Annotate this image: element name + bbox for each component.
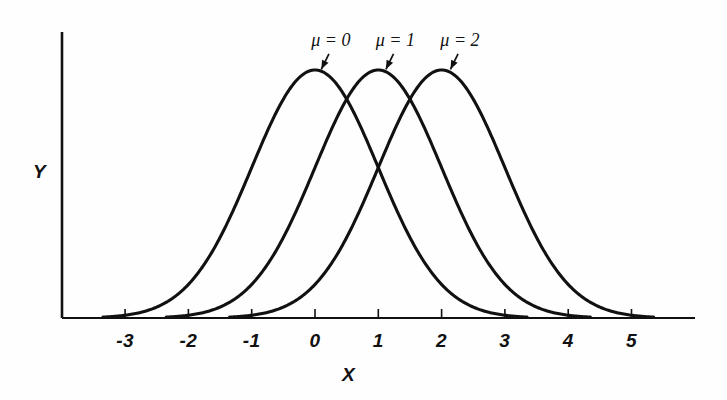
x-tick-label: 4 (563, 330, 574, 352)
normal-curve (103, 70, 527, 317)
annotation-arrow-head (450, 60, 457, 70)
x-tick-label: 5 (626, 330, 637, 352)
x-tick-label: 1 (373, 330, 384, 352)
x-tick-label: -3 (116, 330, 134, 352)
curve-mean-annotation: μ = 0 (311, 30, 350, 51)
curve-mean-annotation: μ = 2 (440, 30, 479, 51)
annotation-arrow-head (386, 60, 393, 70)
x-tick-label: 2 (436, 330, 447, 352)
curves-group (103, 70, 654, 317)
axes-group (62, 32, 695, 318)
normal-distributions-figure: -3-2-1012345 μ = 0μ = 1μ = 2 X Y (0, 0, 727, 400)
y-axis-title: Y (33, 161, 46, 183)
normal-curve (166, 70, 590, 317)
plot-canvas (0, 0, 727, 400)
normal-curve (230, 70, 654, 317)
x-axis-title: X (342, 364, 355, 386)
x-tick-label: 0 (309, 330, 320, 352)
x-tick-label: -1 (243, 330, 261, 352)
x-tick-label: -2 (179, 330, 197, 352)
curve-mean-annotation: μ = 1 (376, 30, 415, 51)
x-tick-label: 3 (499, 330, 510, 352)
annotation-arrow-head (321, 60, 328, 70)
pointer-arrows-group (321, 54, 458, 70)
